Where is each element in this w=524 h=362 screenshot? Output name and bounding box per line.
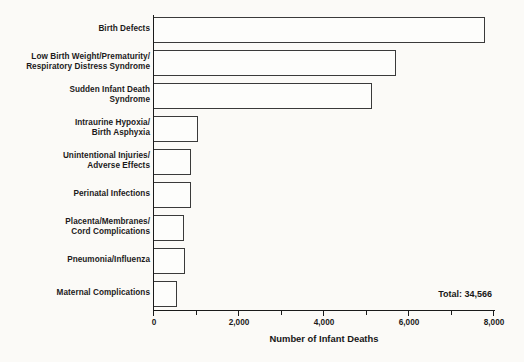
- bar: [154, 215, 184, 241]
- x-axis-tick-label: 8,000: [484, 318, 505, 327]
- category-label-column: Birth Defects Low Birth Weight/Prematuri…: [0, 0, 150, 362]
- category-label: Maternal Complications: [4, 288, 150, 298]
- x-axis-tick-label: 4,000: [314, 318, 335, 327]
- bar: [154, 281, 177, 307]
- x-axis-tick: [153, 311, 154, 316]
- x-axis-tick-minor: [196, 311, 197, 315]
- category-label: Birth Defects: [4, 24, 150, 34]
- x-axis-tick-minor: [451, 311, 452, 315]
- x-axis-title: Number of Infant Deaths: [154, 333, 494, 344]
- x-axis-tick: [238, 311, 239, 316]
- category-label: Pneumonia/Influenza: [4, 255, 150, 265]
- bar: [154, 17, 485, 43]
- category-label: Perinatal Infections: [4, 189, 150, 199]
- x-axis-tick-label: 2,000: [229, 318, 250, 327]
- x-axis-tick: [408, 311, 409, 316]
- bar: [154, 149, 191, 175]
- plot-area: 0 2,000 4,000 6,000 8,000 Total: 34,566 …: [154, 15, 494, 310]
- bar: [154, 248, 185, 274]
- category-label: Unintentional Injuries/ Adverse Effects: [4, 151, 150, 171]
- category-label: Low Birth Weight/Prematurity/ Respirator…: [4, 52, 150, 72]
- x-axis-tick: [493, 311, 494, 316]
- bar: [154, 182, 191, 208]
- total-annotation: Total: 34,566: [438, 289, 492, 299]
- x-axis-tick-label: 6,000: [399, 318, 420, 327]
- category-label: Sudden Infant Death Syndrome: [4, 85, 150, 105]
- bar: [154, 83, 372, 109]
- x-axis-tick-minor: [281, 311, 282, 315]
- infant-deaths-bar-chart: Birth Defects Low Birth Weight/Prematuri…: [0, 0, 524, 362]
- bar: [154, 116, 198, 142]
- category-label: Intraurine Hypoxia/ Birth Asphyxia: [4, 118, 150, 138]
- category-label: Placenta/Membranes/ Cord Complications: [4, 217, 150, 237]
- x-axis-tick: [323, 311, 324, 316]
- x-axis-tick-minor: [366, 311, 367, 315]
- bar: [154, 50, 396, 76]
- x-axis-tick-label: 0: [152, 318, 157, 327]
